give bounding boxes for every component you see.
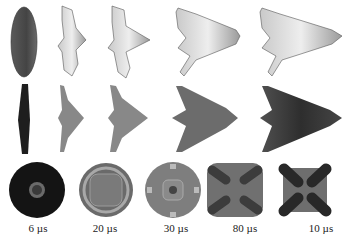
profile-30us [108,85,148,152]
simulation-figure [0,0,349,242]
wireframe-80us [176,8,240,76]
contour-20us [79,163,133,217]
wireframe-row [11,6,342,78]
time-label-80us: 80 µs [215,222,275,234]
profile-10us [260,86,342,152]
profile-20us [58,85,84,152]
wireframe-30us [108,6,150,78]
time-label-20us: 20 µs [75,222,135,234]
wireframe-10us [260,8,342,76]
wireframe-6us [11,7,37,77]
contour-6us [9,162,65,218]
time-label-6us: 6 µs [8,222,68,234]
contour-10us [283,168,327,212]
contour-80us [207,163,263,217]
time-label-30us: 30 µs [146,222,206,234]
contour-row [9,162,327,218]
wireframe-20us [58,6,86,76]
profile-row [18,84,342,154]
contour-30us [145,162,201,218]
profile-6us [18,84,30,154]
time-label-10us: 10 µs [291,222,349,234]
profile-80us [172,86,238,152]
